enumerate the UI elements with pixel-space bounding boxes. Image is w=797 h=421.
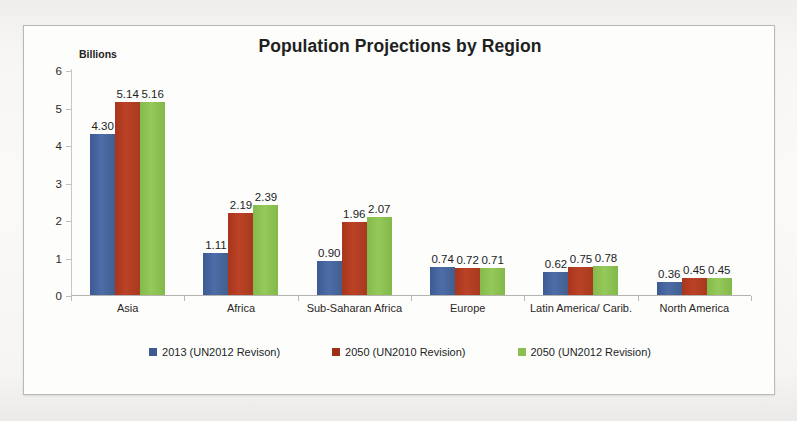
bar[interactable]: 0.78 [593,266,618,295]
bar[interactable]: 0.90 [317,261,342,295]
x-axis-category-label: North America [638,302,751,314]
x-axis-tick-mark [411,296,412,301]
bar-value-label: 0.78 [595,252,617,264]
chart-legend: 2013 (UN2012 Revison)2050 (UN2010 Revisi… [24,346,776,358]
chart-frame: Population Projections by Region Billion… [23,25,775,395]
bar-group: 1.112.192.39Africa [184,70,297,295]
bar-group-bars: 0.901.962.07 [317,70,392,295]
legend-swatch-icon [149,348,157,356]
bar-group: 0.620.750.78Latin America/ Carib. [524,70,637,295]
x-axis-tick-mark [71,296,72,301]
bar-group: 0.360.450.45North America [638,70,751,295]
legend-label: 2013 (UN2012 Revison) [162,346,280,358]
bar[interactable]: 5.14 [115,102,140,295]
bar[interactable]: 4.30 [90,134,115,295]
bar[interactable]: 0.62 [543,272,568,295]
bar-value-label: 0.75 [570,253,592,265]
bar[interactable]: 0.45 [682,278,707,295]
legend-item[interactable]: 2050 (UN2012 Revision) [518,346,651,358]
bar-group: 0.740.720.71Europe [411,70,524,295]
legend-label: 2050 (UN2012 Revision) [531,346,651,358]
bar-value-label: 0.36 [658,268,680,280]
scanned-page-background: Population Projections by Region Billion… [0,0,797,421]
bar-value-label: 0.71 [481,254,503,266]
x-axis-tick-mark [524,296,525,301]
bar-value-label: 0.74 [431,253,453,265]
bar[interactable]: 2.39 [253,205,278,295]
bar-value-label: 0.45 [683,264,705,276]
x-axis-tick-mark [184,296,185,301]
y-axis-tick-label: 5 [56,103,62,115]
chart-title: Population Projections by Region [24,36,776,57]
bar[interactable]: 0.71 [480,268,505,295]
bar-value-label: 0.72 [456,254,478,266]
y-axis-tick-label: 1 [56,253,62,265]
legend-item[interactable]: 2050 (UN2010 Revision) [332,346,465,358]
bar[interactable]: 2.07 [367,217,392,295]
bar[interactable]: 0.72 [455,268,480,295]
plot-area: 0123456 4.305.145.16Asia1.112.192.39Afri… [71,71,751,296]
bar-group-bars: 0.740.720.71 [430,70,505,295]
x-axis-tick-mark [298,296,299,301]
x-axis-category-label: Sub-Saharan Africa [298,302,411,314]
x-axis-category-label: Asia [71,302,184,314]
legend-swatch-icon [332,348,340,356]
x-axis-category-label: Europe [411,302,524,314]
bar-value-label: 0.90 [318,247,340,259]
bar-value-label: 2.39 [255,191,277,203]
y-axis-tick-label: 0 [56,290,62,302]
bar-group-bars: 4.305.145.16 [90,70,165,295]
bar-group-bars: 0.620.750.78 [543,70,618,295]
bar-group-bars: 0.360.450.45 [657,70,732,295]
y-axis-tick-label: 3 [56,178,62,190]
bar[interactable]: 0.75 [568,267,593,295]
legend-item[interactable]: 2013 (UN2012 Revison) [149,346,280,358]
bar[interactable]: 0.74 [430,267,455,295]
bar-value-label: 2.07 [368,203,390,215]
legend-swatch-icon [518,348,526,356]
bar-value-label: 2.19 [230,199,252,211]
y-axis-tick-label: 4 [56,140,62,152]
bar-group-bars: 1.112.192.39 [203,70,278,295]
bar-group: 0.901.962.07Sub-Saharan Africa [298,70,411,295]
x-axis-tick-mark [751,296,752,301]
x-axis-category-label: Latin America/ Carib. [524,302,637,314]
bar[interactable]: 0.36 [657,282,682,296]
y-axis-unit-label: Billions [79,48,117,60]
bar-value-label: 0.45 [708,264,730,276]
bar-value-label: 1.11 [205,239,227,251]
x-axis-category-label: Africa [184,302,297,314]
bar-value-label: 1.96 [343,208,365,220]
bar-group: 4.305.145.16Asia [71,70,184,295]
bar-value-label: 4.30 [91,120,113,132]
y-axis-tick-label: 2 [56,215,62,227]
legend-label: 2050 (UN2010 Revision) [345,346,465,358]
bar-value-label: 5.16 [141,88,163,100]
bar-value-label: 0.62 [545,258,567,270]
bar[interactable]: 5.16 [140,102,165,296]
bar[interactable]: 2.19 [228,213,253,295]
bar[interactable]: 1.11 [203,253,228,295]
bar[interactable]: 1.96 [342,222,367,296]
bar-value-label: 5.14 [116,88,138,100]
y-axis-tick-label: 6 [56,65,62,77]
x-axis-tick-mark [638,296,639,301]
bar[interactable]: 0.45 [707,278,732,295]
